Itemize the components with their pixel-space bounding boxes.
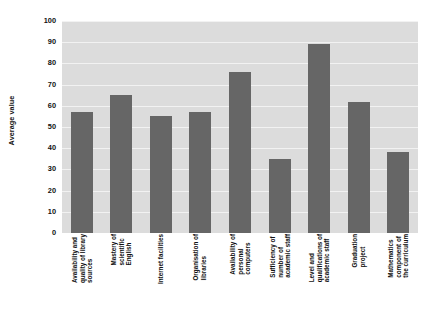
x-axis-label-slot: Availability andquality of librarysource… xyxy=(62,234,102,311)
bar-slot xyxy=(102,21,142,233)
x-axis-label-line: academic staff xyxy=(283,234,291,278)
x-axis-label-line: the curriculum xyxy=(402,234,410,278)
x-axis-label: Mastery ofscientificEnglish xyxy=(110,234,133,266)
y-axis-tick: 20 xyxy=(28,187,56,194)
x-axis-label-slot: Availability ofpersonalcomputers xyxy=(220,234,260,311)
x-axis-label-slot: Internet facilities xyxy=(141,234,181,311)
bar xyxy=(229,72,251,233)
bar xyxy=(308,44,330,233)
x-axis-label-slot: Level andqualifications ofacademic staff xyxy=(299,234,339,311)
y-axis-tick: 80 xyxy=(28,60,56,67)
y-axis-tick: 100 xyxy=(28,17,56,24)
x-axis-label-slot: Graduationproject xyxy=(339,234,379,311)
y-axis-tick-labels: 1009080706050403020100 xyxy=(28,0,60,311)
x-axis-label-line: English xyxy=(125,234,133,266)
y-axis-tick: 60 xyxy=(28,102,56,109)
bar-slot xyxy=(339,21,379,233)
bar-slot xyxy=(181,21,221,233)
bar-slot xyxy=(299,21,339,233)
bar xyxy=(110,95,132,233)
x-axis-label-line: libraries xyxy=(200,234,208,281)
x-axis-label: Mathematicscomponent ofthe curriculum xyxy=(387,234,410,278)
x-axis-label-line: project xyxy=(359,234,367,268)
bar xyxy=(150,116,172,233)
bar xyxy=(269,159,291,233)
plot-area xyxy=(62,21,418,233)
x-axis-label: Internet facilities xyxy=(157,234,165,284)
y-axis-tick: 10 xyxy=(28,208,56,215)
bar-slot xyxy=(220,21,260,233)
y-axis-title-text: Average value xyxy=(8,95,17,145)
x-axis-label: Organisation oflibraries xyxy=(193,234,208,281)
x-axis-label: Availability andquality of librarysource… xyxy=(70,234,93,283)
x-axis-label: Availability ofpersonalcomputers xyxy=(229,234,252,275)
bar xyxy=(387,152,409,233)
x-axis-label-line: Availability of xyxy=(229,234,237,275)
x-axis-label-slot: Mathematicscomponent ofthe curriculum xyxy=(379,234,419,311)
bar-slot xyxy=(260,21,300,233)
bar-slot xyxy=(141,21,181,233)
x-axis-label-line: Availability and xyxy=(70,234,78,283)
x-axis-label-line: quality of library xyxy=(78,234,86,283)
bar xyxy=(348,102,370,233)
x-axis-label-line: Internet facilities xyxy=(157,234,165,284)
x-axis-label-line: Mathematics xyxy=(387,234,395,278)
y-axis-tick: 50 xyxy=(28,123,56,130)
x-axis-label: Graduationproject xyxy=(351,234,366,268)
bar xyxy=(189,112,211,233)
x-axis-label: Sufficiency ofnumber ofacademic staff xyxy=(268,234,291,278)
x-axis-label-slot: Organisation oflibraries xyxy=(181,234,221,311)
x-axis-category-labels: Availability andquality of librarysource… xyxy=(62,234,418,311)
bar-slot xyxy=(62,21,102,233)
bar xyxy=(71,112,93,233)
x-axis-label-line: computers xyxy=(244,234,252,275)
bar-chart-figure: Average value 1009080706050403020100 Ava… xyxy=(0,0,424,311)
x-axis-label-slot: Sufficiency ofnumber ofacademic staff xyxy=(260,234,300,311)
y-axis-tick: 90 xyxy=(28,38,56,45)
y-axis-tick: 70 xyxy=(28,81,56,88)
x-axis-label-line: Graduation xyxy=(351,234,359,268)
y-axis-title: Average value xyxy=(0,0,24,240)
x-axis-label-line: sources xyxy=(86,234,94,283)
x-axis-label-line: personal xyxy=(236,234,244,275)
y-axis-tick: 40 xyxy=(28,144,56,151)
x-axis-label-line: Organisation of xyxy=(193,234,201,281)
x-axis-label: Level andqualifications ofacademic staff xyxy=(308,234,331,282)
x-axis-label-slot: Mastery ofscientificEnglish xyxy=(102,234,142,311)
bar-series xyxy=(62,21,418,233)
bar-slot xyxy=(379,21,419,233)
y-axis-tick: 0 xyxy=(28,229,56,236)
x-axis-label-line: number of xyxy=(276,234,284,278)
y-axis-tick: 30 xyxy=(28,166,56,173)
x-axis-label-line: academic staff xyxy=(323,234,331,282)
x-axis-label-line: Sufficiency of xyxy=(268,234,276,278)
x-axis-label-line: Mastery of xyxy=(110,234,118,266)
